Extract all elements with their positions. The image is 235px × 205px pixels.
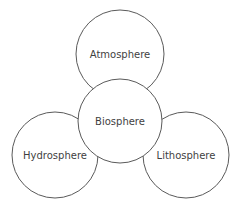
biosphere-node: Biosphere (78, 79, 162, 163)
hydrosphere-label: Hydrosphere (23, 150, 87, 161)
earth-spheres-diagram: Atmosphere Hydrosphere Lithosphere Biosp… (0, 0, 235, 205)
lithosphere-label: Lithosphere (157, 150, 216, 161)
atmosphere-label: Atmosphere (90, 49, 151, 60)
biosphere-label: Biosphere (95, 116, 145, 127)
